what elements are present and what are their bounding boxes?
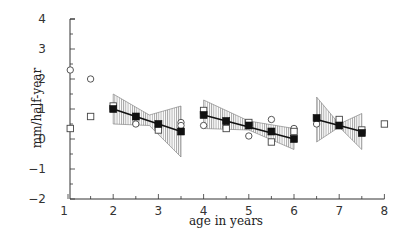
x-tick-label: 1: [60, 204, 68, 218]
x-tick-label: 8: [381, 204, 389, 218]
y-tick-label: 4: [38, 12, 46, 26]
circle-marker: [268, 116, 274, 122]
circle-marker: [200, 122, 206, 128]
filled-square-marker: [223, 118, 230, 125]
filled-square-marker: [268, 128, 275, 135]
filled-square-marker: [110, 106, 117, 113]
circle-marker: [133, 121, 139, 127]
data-points: [67, 67, 388, 145]
filled-square-marker: [313, 115, 320, 122]
circle-marker: [246, 133, 252, 139]
chart-canvas: 43210−1−212345678 age in years mm/half-y…: [0, 0, 400, 237]
open-square-marker: [67, 125, 73, 131]
filled-square-marker: [178, 128, 185, 135]
circle-marker: [87, 76, 93, 82]
y-tick-label: −1: [28, 162, 46, 176]
open-square-marker: [291, 128, 297, 134]
filled-square-marker: [291, 136, 298, 143]
y-axis-title: mm/half-year: [30, 68, 44, 149]
open-square-marker: [268, 139, 274, 145]
x-axis-title: age in years: [189, 214, 263, 228]
filled-square-marker: [155, 121, 162, 128]
x-tick-label: 2: [109, 204, 117, 218]
confidence-band-1: [113, 94, 181, 157]
open-square-marker: [223, 125, 229, 131]
filled-square-marker: [336, 122, 343, 129]
y-tick-label: −2: [28, 192, 46, 206]
filled-square-marker: [245, 122, 252, 129]
open-square-marker: [87, 113, 93, 119]
x-tick-label: 6: [290, 204, 298, 218]
filled-square-marker: [132, 113, 139, 120]
open-square-marker: [381, 121, 387, 127]
y-tick-label: 3: [38, 42, 46, 56]
confidence-bands: [113, 94, 362, 157]
x-tick-label: 3: [155, 204, 163, 218]
circle-marker: [67, 67, 73, 73]
filled-square-marker: [358, 130, 365, 137]
filled-square-marker: [200, 112, 207, 119]
x-tick-label: 7: [335, 204, 343, 218]
